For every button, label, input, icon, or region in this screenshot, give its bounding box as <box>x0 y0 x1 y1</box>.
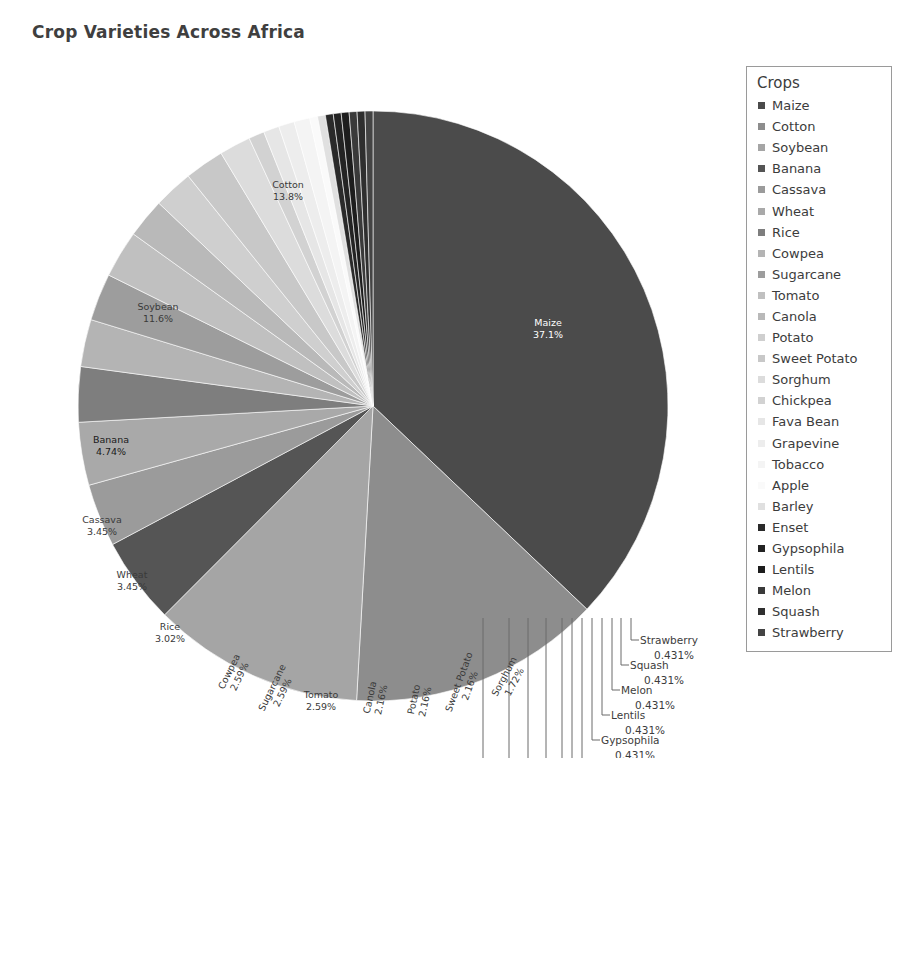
legend-item[interactable]: Strawberry <box>755 622 883 643</box>
legend-item-label: Rice <box>772 226 800 239</box>
slice-label: Cotton13.8% <box>272 179 304 202</box>
legend-item-label: Barley <box>772 500 814 513</box>
legend-swatch-icon <box>758 355 765 362</box>
leader-line <box>612 618 620 690</box>
legend-swatch-icon <box>758 186 765 193</box>
legend-swatch-icon <box>758 397 765 404</box>
legend-item-label: Fava Bean <box>772 415 839 428</box>
legend-item[interactable]: Barley <box>755 496 883 517</box>
legend-swatch-icon <box>758 440 765 447</box>
legend-item[interactable]: Sorghum <box>755 369 883 390</box>
legend-item-label: Cowpea <box>772 247 824 260</box>
leader-label-name: Melon <box>621 684 653 696</box>
legend-swatch-icon <box>758 545 765 552</box>
leader-label-name: Squash <box>630 659 669 671</box>
legend-item-label: Sugarcane <box>772 268 841 281</box>
legend-item[interactable]: Tomato <box>755 285 883 306</box>
legend-item-label: Cassava <box>772 183 826 196</box>
legend-swatch-icon <box>758 461 765 468</box>
legend-swatch-icon <box>758 376 765 383</box>
legend-item[interactable]: Gypsophila <box>755 538 883 559</box>
legend-item[interactable]: Melon <box>755 580 883 601</box>
legend-item-label: Sweet Potato <box>772 352 858 365</box>
legend-item[interactable]: Canola <box>755 306 883 327</box>
slice-label: Maize37.1% <box>533 317 563 340</box>
legend-swatch-icon <box>758 587 765 594</box>
leader-line <box>592 618 600 740</box>
legend-swatch-icon <box>758 418 765 425</box>
leader-label-name: Gypsophila <box>601 734 660 746</box>
legend-swatch-icon <box>758 292 765 299</box>
legend-item[interactable]: Cassava <box>755 179 883 200</box>
leader-line <box>631 618 639 640</box>
legend-item-label: Wheat <box>772 205 814 218</box>
legend-item[interactable]: Fava Bean <box>755 411 883 432</box>
legend-item[interactable]: Rice <box>755 222 883 243</box>
legend-item[interactable]: Apple <box>755 475 883 496</box>
legend-swatch-icon <box>758 144 765 151</box>
legend-swatch-icon <box>758 123 765 130</box>
legend-item-label: Gypsophila <box>772 542 844 555</box>
slice-label: Potato2.16% <box>405 683 433 717</box>
legend-item-label: Grapevine <box>772 437 839 450</box>
legend-item[interactable]: Wheat <box>755 200 883 221</box>
legend-item[interactable]: Chickpea <box>755 390 883 411</box>
legend-item[interactable]: Squash <box>755 601 883 622</box>
pie-slices <box>78 111 668 701</box>
legend-swatch-icon <box>758 629 765 636</box>
legend-item-label: Canola <box>772 310 817 323</box>
legend-swatch-icon <box>758 334 765 341</box>
slice-label: Wheat3.45% <box>117 569 148 592</box>
pie-chart: Maize37.1%Cotton13.8%Soybean11.6%Banana4… <box>18 58 728 758</box>
legend-item-label: Banana <box>772 162 821 175</box>
legend-item-label: Squash <box>772 605 820 618</box>
legend-swatch-icon <box>758 566 765 573</box>
legend-item-label: Tobacco <box>772 458 824 471</box>
legend-item-label: Lentils <box>772 563 814 576</box>
legend-item-label: Soybean <box>772 141 828 154</box>
legend-item[interactable]: Sugarcane <box>755 264 883 285</box>
slice-label: Cassava3.45% <box>82 514 122 537</box>
leader-label-name: Lentils <box>611 709 645 721</box>
legend-item[interactable]: Soybean <box>755 137 883 158</box>
legend-item-label: Sorghum <box>772 373 831 386</box>
slice-label: Soybean11.6% <box>137 301 178 324</box>
legend-item[interactable]: Tobacco <box>755 454 883 475</box>
page-title: Crop Varieties Across Africa <box>32 22 305 42</box>
leader-line <box>562 618 570 758</box>
slice-label: Tomato2.59% <box>303 689 339 712</box>
legend-item[interactable]: Enset <box>755 517 883 538</box>
legend-swatch-icon <box>758 524 765 531</box>
leader-line <box>602 618 610 715</box>
legend-swatch-icon <box>758 229 765 236</box>
legend-item-label: Melon <box>772 584 811 597</box>
legend-item-label: Strawberry <box>772 626 844 639</box>
leader-line <box>582 618 590 758</box>
legend-item[interactable]: Potato <box>755 327 883 348</box>
legend-swatch-icon <box>758 313 765 320</box>
legend-item-label: Tomato <box>772 289 819 302</box>
pie-chart-svg: Maize37.1%Cotton13.8%Soybean11.6%Banana4… <box>18 58 728 758</box>
legend-item[interactable]: Cowpea <box>755 243 883 264</box>
legend-item-label: Apple <box>772 479 809 492</box>
legend-item-label: Maize <box>772 99 810 112</box>
legend: Crops MaizeCottonSoybeanBananaCassavaWhe… <box>746 66 892 652</box>
legend-swatch-icon <box>758 165 765 172</box>
legend-item-label: Enset <box>772 521 808 534</box>
legend-item-label: Chickpea <box>772 394 832 407</box>
legend-items: MaizeCottonSoybeanBananaCassavaWheatRice… <box>755 95 883 643</box>
legend-item[interactable]: Grapevine <box>755 433 883 454</box>
legend-item[interactable]: Lentils <box>755 559 883 580</box>
legend-item-label: Cotton <box>772 120 815 133</box>
legend-item-label: Potato <box>772 331 813 344</box>
legend-item[interactable]: Banana <box>755 158 883 179</box>
legend-swatch-icon <box>758 608 765 615</box>
legend-swatch-icon <box>758 250 765 257</box>
legend-swatch-icon <box>758 208 765 215</box>
legend-title: Crops <box>757 74 883 92</box>
legend-swatch-icon <box>758 503 765 510</box>
legend-item[interactable]: Cotton <box>755 116 883 137</box>
legend-swatch-icon <box>758 482 765 489</box>
legend-item[interactable]: Sweet Potato <box>755 348 883 369</box>
legend-item[interactable]: Maize <box>755 95 883 116</box>
